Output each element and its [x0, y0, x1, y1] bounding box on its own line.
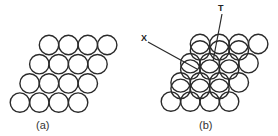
sphere-a [78, 35, 97, 54]
panel-a-layer [10, 35, 117, 112]
panel-a-label: (a) [36, 120, 49, 131]
annotation-t: T [218, 4, 224, 13]
sphere-b-lower [181, 92, 200, 111]
annotation-x: X [141, 34, 147, 43]
close-packing-diagram [0, 0, 278, 136]
sphere-b-lower [161, 92, 180, 111]
sphere-a [39, 35, 58, 54]
sphere-a [88, 54, 107, 73]
sphere-a [68, 93, 87, 112]
sphere-a [49, 54, 68, 73]
sphere-b-lower [200, 92, 219, 111]
panel-b-lower-layer [161, 34, 268, 111]
sphere-a [78, 74, 97, 93]
panel-b-label: (b) [199, 120, 212, 131]
sphere-a [49, 93, 68, 112]
sphere-a [39, 74, 58, 93]
sphere-a [10, 93, 29, 112]
sphere-a [59, 74, 78, 93]
sphere-a [30, 93, 49, 112]
sphere-a [20, 74, 39, 93]
sphere-b-lower [239, 54, 258, 73]
sphere-a [30, 54, 49, 73]
sphere-b-lower [219, 92, 238, 111]
sphere-a [59, 35, 78, 54]
sphere-b-lower [249, 34, 268, 53]
pointer-line-x [148, 42, 197, 69]
sphere-a [68, 54, 87, 73]
sphere-b-lower [229, 73, 248, 92]
sphere-a [98, 35, 117, 54]
